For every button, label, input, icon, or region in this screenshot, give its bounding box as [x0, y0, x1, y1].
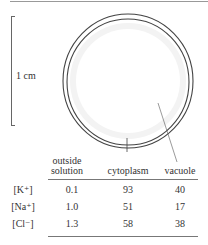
vacuole-region — [76, 29, 180, 133]
value-outside: 1.3 — [52, 218, 92, 229]
column-header-line2: solution — [44, 166, 90, 176]
ion-label: [Na⁺] — [0, 201, 46, 212]
table-bottom-rule — [48, 236, 198, 237]
column-header-vacuole: vacuole — [160, 166, 200, 176]
value-cytoplasm: 51 — [108, 201, 148, 212]
value-vacuole: 38 — [160, 218, 200, 229]
table-header-rule — [48, 179, 198, 180]
value-outside: 0.1 — [52, 184, 92, 195]
value-vacuole: 40 — [160, 184, 200, 195]
value-vacuole: 17 — [160, 201, 200, 212]
value-cytoplasm: 93 — [108, 184, 148, 195]
ion-label: [K⁺] — [0, 184, 46, 195]
column-header-cytoplasm: cytoplasm — [100, 166, 156, 176]
value-cytoplasm: 58 — [108, 218, 148, 229]
column-header-outside-solution: outside solution — [44, 156, 90, 176]
value-outside: 1.0 — [52, 201, 92, 212]
ion-label: [Cl⁻] — [0, 218, 46, 229]
